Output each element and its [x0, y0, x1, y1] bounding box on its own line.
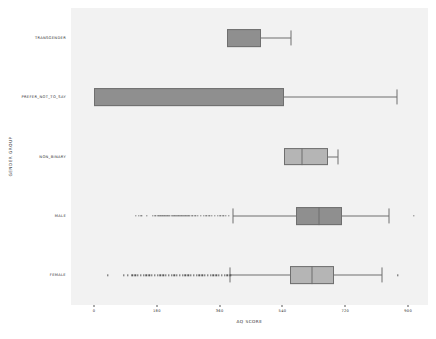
- x-tick-label: 720: [341, 309, 349, 313]
- outlier-point: [123, 275, 124, 276]
- outlier-point: [217, 215, 218, 216]
- y-axis-title: GENDER GROUP: [8, 8, 18, 305]
- whisker-high-cap: [291, 30, 292, 45]
- outlier-point: [218, 275, 219, 276]
- x-tick-mark: [345, 305, 346, 307]
- median-line: [302, 148, 303, 166]
- outlier-point: [413, 215, 414, 216]
- y-tick-label: FEMALE: [50, 273, 66, 277]
- outlier-point: [220, 215, 221, 216]
- outlier-point: [227, 275, 228, 276]
- outlier-point: [190, 275, 191, 276]
- outlier-point: [148, 275, 149, 276]
- outlier-point: [165, 275, 166, 276]
- x-tick-label: 0: [93, 309, 96, 313]
- outlier-point: [224, 275, 225, 276]
- median-line: [312, 266, 313, 284]
- outlier-point: [214, 215, 215, 216]
- boxplot-figure: GENDER GROUP 0180360540720900TRANSGENDER…: [0, 0, 436, 339]
- outlier-point: [179, 275, 180, 276]
- whisker-high-line: [261, 37, 291, 38]
- outlier-point: [228, 215, 229, 216]
- outlier-point: [151, 275, 152, 276]
- y-tick-label: TRANSGENDER: [35, 36, 66, 40]
- median-line: [319, 207, 320, 225]
- outlier-point: [193, 275, 194, 276]
- whisker-high-line: [342, 215, 389, 216]
- whisker-high-line: [334, 275, 382, 276]
- outlier-point: [137, 275, 138, 276]
- x-tick-mark: [408, 305, 409, 307]
- whisker-high-line: [284, 97, 397, 98]
- whisker-high-line: [328, 156, 338, 157]
- outlier-point: [146, 275, 147, 276]
- outlier-point: [200, 215, 201, 216]
- outlier-point: [162, 275, 163, 276]
- outlier-point: [174, 275, 175, 276]
- outlier-point: [210, 275, 211, 276]
- outlier-point: [127, 275, 128, 276]
- x-tick-label: 180: [153, 309, 161, 313]
- outlier-point: [107, 275, 108, 276]
- outlier-point: [135, 215, 136, 216]
- x-tick-mark: [282, 305, 283, 307]
- outlier-point: [397, 275, 398, 276]
- outlier-point: [215, 275, 216, 276]
- outlier-point: [197, 215, 198, 216]
- outlier-point: [155, 215, 156, 216]
- whisker-high-cap: [382, 268, 383, 283]
- x-axis-title: AQ SCORE: [71, 319, 428, 324]
- y-tick-label: PREFER_NOT_TO_SAY: [21, 95, 66, 99]
- whisker-low-cap: [232, 208, 233, 223]
- outlier-point: [146, 215, 147, 216]
- x-tick-label: 900: [404, 309, 412, 313]
- whisker-low-line: [233, 215, 296, 216]
- outlier-point: [185, 275, 186, 276]
- outlier-point: [225, 215, 226, 216]
- outlier-point: [189, 215, 190, 216]
- outlier-point: [195, 215, 196, 216]
- outlier-point: [132, 275, 133, 276]
- x-tick-mark: [156, 305, 157, 307]
- outlier-point: [135, 275, 136, 276]
- outlier-point: [141, 215, 142, 216]
- whisker-high-cap: [396, 90, 397, 105]
- outlier-point: [152, 215, 153, 216]
- outlier-point: [213, 275, 214, 276]
- outlier-point: [140, 275, 141, 276]
- outlier-point: [211, 215, 212, 216]
- x-tick-mark: [219, 305, 220, 307]
- outlier-point: [221, 275, 222, 276]
- x-tick-label: 540: [279, 309, 287, 313]
- outlier-point: [143, 275, 144, 276]
- box-rect: [227, 29, 261, 47]
- box-rect: [284, 148, 328, 166]
- outlier-point: [204, 275, 205, 276]
- whisker-low-line: [230, 275, 290, 276]
- outlier-point: [182, 275, 183, 276]
- plot-area: 0180360540720900TRANSGENDERPREFER_NOT_TO…: [71, 8, 428, 305]
- y-tick-label: NON_BINARY: [39, 155, 66, 159]
- outlier-point: [168, 275, 169, 276]
- box-rect: [94, 88, 284, 106]
- whisker-high-cap: [338, 149, 339, 164]
- outlier-point: [208, 215, 209, 216]
- outlier-point: [171, 275, 172, 276]
- outlier-point: [157, 275, 158, 276]
- outlier-point: [207, 275, 208, 276]
- outlier-point: [203, 215, 204, 216]
- outlier-point: [229, 275, 230, 276]
- outlier-point: [192, 215, 193, 216]
- outlier-point: [206, 215, 207, 216]
- outlier-point: [176, 275, 177, 276]
- x-tick-label: 360: [216, 309, 224, 313]
- outlier-point: [202, 275, 203, 276]
- outlier-point: [160, 275, 161, 276]
- y-tick-label: MALE: [55, 214, 66, 218]
- outlier-point: [222, 215, 223, 216]
- outlier-point: [199, 275, 200, 276]
- outlier-point: [154, 275, 155, 276]
- outlier-point: [196, 275, 197, 276]
- outlier-point: [138, 215, 139, 216]
- outlier-point: [188, 275, 189, 276]
